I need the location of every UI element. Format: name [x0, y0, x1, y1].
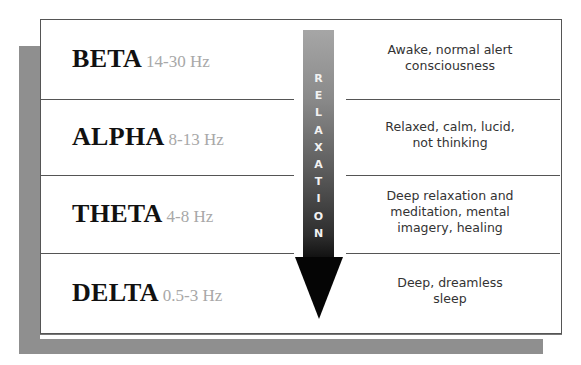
band-frequency: 0.5-3 Hz	[163, 286, 222, 305]
arrow-letter: E	[315, 87, 323, 104]
panel-bottom-line	[40, 334, 562, 335]
description-line: Relaxed, calm, lucid,	[350, 119, 550, 135]
arrow-letter: I	[316, 190, 320, 207]
description-line: Deep, dreamless	[350, 275, 550, 291]
band-frequency: 8-13 Hz	[169, 130, 224, 149]
band-name: THETA	[72, 199, 163, 228]
band-description-alpha: Relaxed, calm, lucid, not thinking	[350, 119, 550, 151]
row-divider	[346, 99, 560, 100]
band-label-delta: DELTA0.5-3 Hz	[72, 278, 222, 308]
band-name: BETA	[72, 44, 142, 73]
arrow-letter: A	[314, 156, 323, 173]
row-divider	[346, 175, 560, 176]
arrow-letter: N	[314, 225, 323, 242]
arrow-down-icon	[295, 257, 343, 319]
row-divider	[346, 253, 560, 254]
arrow-letter: X	[314, 139, 322, 156]
description-line: meditation, mental	[350, 204, 550, 220]
band-label-beta: BETA14-30 Hz	[72, 44, 210, 74]
arrow-letter: O	[314, 208, 323, 225]
panel-shadow-bottom	[19, 339, 543, 354]
description-line: imagery, healing	[350, 220, 550, 236]
band-name: DELTA	[72, 278, 159, 307]
arrow-letter: L	[315, 104, 322, 121]
arrow-letter: A	[314, 122, 323, 139]
description-line: Deep relaxation and	[350, 188, 550, 204]
band-label-alpha: ALPHA8-13 Hz	[72, 122, 224, 152]
relaxation-arrow-label: R E L A X A T I O N	[303, 70, 334, 242]
arrow-letter: R	[314, 70, 322, 87]
description-line: consciousness	[350, 58, 550, 74]
band-description-delta: Deep, dreamless sleep	[350, 275, 550, 307]
band-frequency: 4-8 Hz	[167, 207, 214, 226]
description-line: Awake, normal alert	[350, 42, 550, 58]
row-divider	[41, 253, 294, 254]
band-frequency: 14-30 Hz	[146, 52, 210, 71]
band-description-theta: Deep relaxation and meditation, mental i…	[350, 188, 550, 236]
arrow-letter: T	[315, 173, 323, 190]
band-description-beta: Awake, normal alert consciousness	[350, 42, 550, 74]
description-line: sleep	[350, 291, 550, 307]
row-divider	[41, 175, 294, 176]
row-divider	[41, 99, 294, 100]
description-line: not thinking	[350, 135, 550, 151]
band-name: ALPHA	[72, 122, 165, 151]
panel-shadow-left	[19, 46, 40, 354]
band-label-theta: THETA4-8 Hz	[72, 199, 213, 229]
